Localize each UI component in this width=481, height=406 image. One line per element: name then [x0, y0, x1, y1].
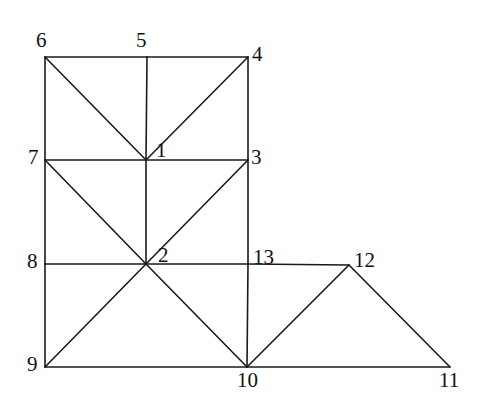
edge-12-11: [349, 265, 450, 367]
node-label-6: 6: [36, 30, 47, 51]
edge-2-10: [146, 264, 247, 367]
node-label-10: 10: [237, 370, 258, 391]
mesh-diagram: [0, 0, 481, 406]
edge-13-10: [247, 264, 248, 367]
edge-5-1: [146, 57, 147, 160]
edge-6-1: [45, 57, 146, 160]
edge-7-2: [45, 160, 146, 264]
node-label-11: 11: [439, 370, 459, 391]
node-label-13: 13: [253, 247, 274, 268]
node-label-5: 5: [136, 30, 147, 51]
node-label-7: 7: [28, 147, 39, 168]
node-label-4: 4: [252, 44, 263, 65]
node-label-12: 12: [354, 250, 375, 271]
node-label-1: 1: [156, 140, 167, 161]
node-label-2: 2: [158, 245, 169, 266]
node-label-9: 9: [27, 354, 38, 375]
node-label-3: 3: [251, 147, 262, 168]
edge-9-2: [45, 264, 146, 367]
edge-group: [45, 57, 450, 367]
node-label-8: 8: [27, 251, 38, 272]
edge-10-12: [247, 265, 349, 367]
